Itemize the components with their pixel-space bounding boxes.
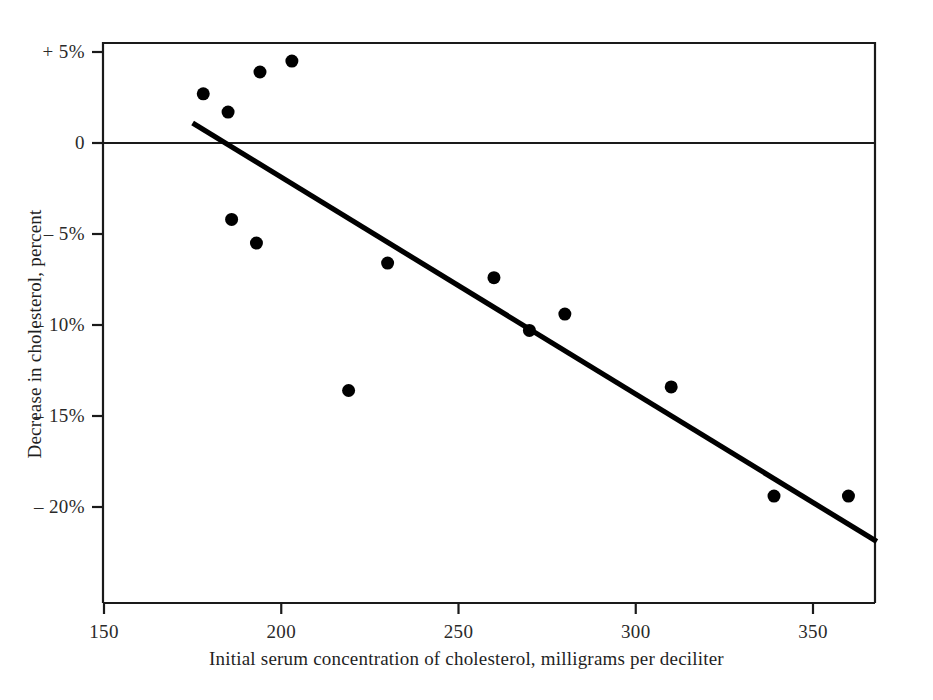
- data-point: [768, 490, 781, 503]
- data-point: [342, 384, 355, 397]
- data-point: [665, 380, 678, 393]
- x-axis-tick-label: 150: [89, 621, 119, 643]
- x-axis-tick-label: 200: [266, 621, 296, 643]
- data-point: [285, 55, 298, 68]
- x-axis-tick-label: 250: [444, 621, 474, 643]
- data-point: [842, 490, 855, 503]
- data-point: [225, 213, 238, 226]
- plot-border: [103, 43, 875, 603]
- x-axis-tick-label: 300: [621, 621, 651, 643]
- x-axis-tick-label: 350: [798, 621, 828, 643]
- plot-frame: [103, 43, 875, 603]
- chart-figure: + 5%0– 5%– 10%– 15%– 20% 150200250300350…: [0, 0, 933, 700]
- scatter-plot-canvas: [0, 0, 933, 700]
- data-point: [558, 308, 571, 321]
- data-point: [487, 271, 500, 284]
- y-axis-title: Decrease in cholesterol, percent: [24, 134, 46, 534]
- y-axis-tick-label: + 5%: [0, 41, 85, 63]
- axis-tick-marks: [92, 52, 813, 614]
- data-points: [197, 55, 855, 503]
- data-point: [222, 106, 235, 119]
- x-axis-title: Initial serum concentration of cholester…: [0, 648, 933, 670]
- data-point: [523, 324, 536, 337]
- data-point: [253, 66, 266, 79]
- data-point: [250, 237, 263, 250]
- data-point: [381, 257, 394, 270]
- data-point: [197, 87, 210, 100]
